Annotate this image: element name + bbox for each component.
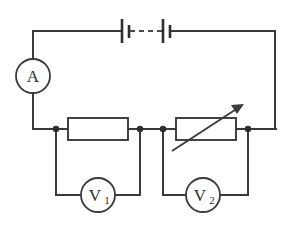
circuit-canvas: A V 1 V 2	[0, 0, 290, 228]
circuit-diagram: A V 1 V 2	[0, 0, 290, 228]
voltmeter-1: V 1	[81, 178, 115, 212]
battery-symbol	[122, 19, 170, 43]
variable-resistor	[172, 104, 244, 151]
fixed-resistor	[68, 118, 128, 140]
voltmeter-2: V 2	[186, 178, 220, 212]
junction-resistor-right	[137, 126, 143, 132]
voltmeter-2-subscript: 2	[209, 194, 215, 206]
junction-mid-node	[160, 126, 166, 132]
junction-right-node	[245, 126, 251, 132]
fixed-resistor-body-icon	[68, 118, 128, 140]
junction-left-node	[53, 126, 59, 132]
voltmeter-2-label: V	[194, 186, 207, 205]
variable-resistor-arrow-head-icon	[231, 104, 244, 114]
ammeter-label: A	[27, 67, 40, 86]
voltmeter-1-label: V	[89, 186, 102, 205]
ammeter: A	[16, 59, 50, 93]
voltmeter-1-subscript: 1	[104, 194, 110, 206]
